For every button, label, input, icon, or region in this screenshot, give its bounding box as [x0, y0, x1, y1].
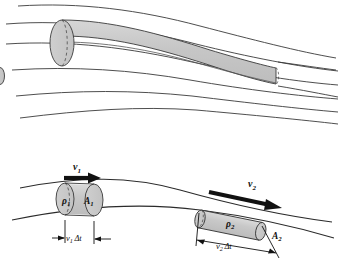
label-rho1-subscript: 1 — [67, 200, 70, 207]
label-rho2-subscript: 2 — [230, 223, 235, 230]
label-v1-subscript: 1 — [77, 167, 81, 175]
label-v2-subscript: 2 — [251, 184, 256, 192]
bottom-panel-group: v1 ρ1 A1 v1Δt v2 ρ2 — [12, 161, 334, 258]
label-v2-dt-subscript: 2 — [220, 245, 223, 252]
element2-dim-line — [197, 240, 276, 253]
label-a2-subscript: 2 — [277, 235, 282, 242]
flow-tube-body — [62, 20, 276, 84]
diagram-canvas: v1 ρ1 A1 v1Δt v2 ρ2 — [0, 0, 342, 261]
label-v1-dt-subscript: 1 — [70, 237, 73, 244]
label-a2-symbol: A — [271, 231, 278, 241]
element1-top-edge — [65, 183, 94, 184]
streamline-1-front — [278, 62, 336, 70]
element2-dim-arrow-left — [197, 239, 205, 244]
top-panel-group — [0, 5, 338, 124]
element1-dim-arrow-left — [58, 236, 65, 241]
label-v2: v2 — [248, 178, 256, 192]
streamline-6 — [20, 108, 338, 124]
label-v1-dt: v1Δt — [66, 233, 82, 244]
streamline-2-front — [278, 86, 338, 97]
v2-arrow-head — [264, 199, 282, 210]
label-v2-dt-suffix: Δt — [223, 241, 232, 251]
element1-velocity-arrow — [64, 173, 101, 184]
label-a1-symbol: A — [83, 196, 90, 206]
element1-bottom-edge — [65, 215, 94, 216]
element1-dim-arrow-right — [94, 237, 101, 242]
flow-tube-right-opening — [0, 68, 5, 85]
label-v2-dt: v2Δt — [216, 241, 232, 252]
physics-figure: v1 ρ1 A1 v1Δt v2 ρ2 — [0, 0, 342, 261]
label-a1-subscript: 1 — [90, 200, 93, 207]
label-v1: v1 — [73, 161, 81, 175]
label-v1-dt-suffix: Δt — [73, 233, 82, 243]
v2-arrow-shaft — [209, 192, 270, 205]
flow-tube-left-opening — [50, 20, 74, 66]
v1-arrow-head — [88, 173, 101, 184]
label-a2: A2 — [271, 231, 282, 242]
